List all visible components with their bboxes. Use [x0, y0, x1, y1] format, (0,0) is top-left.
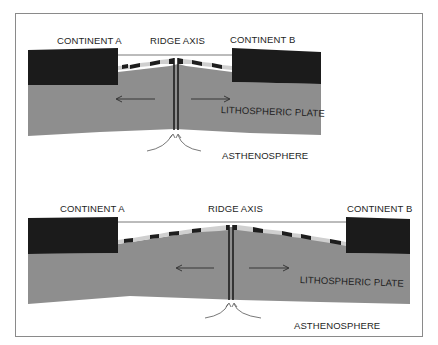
bottom-continent-a: [28, 217, 118, 254]
top-upwelling-arrows-icon: [147, 134, 201, 151]
top-panel: [28, 48, 321, 151]
bottom-upwelling-arrows-icon: [205, 303, 261, 318]
bottom-label-continent-a: CONTINENT A: [60, 203, 125, 214]
bottom-label-continent-b: CONTINENT B: [347, 203, 412, 214]
bottom-continent-b: [346, 217, 410, 254]
seafloor-spreading-diagram: [0, 0, 438, 345]
top-label-continent-b: CONTINENT B: [230, 34, 295, 45]
bottom-label-ridge-axis: RIDGE AXIS: [208, 203, 263, 214]
bottom-panel: [28, 217, 410, 318]
top-label-continent-a: CONTINENT A: [57, 35, 122, 46]
top-label-asthenosphere: ASTHENOSPHERE: [222, 150, 308, 161]
top-continent-a: [28, 48, 118, 85]
bottom-label-asthenosphere: ASTHENOSPHERE: [294, 320, 380, 331]
top-label-ridge-axis: RIDGE AXIS: [150, 35, 205, 46]
top-continent-b: [232, 48, 321, 84]
